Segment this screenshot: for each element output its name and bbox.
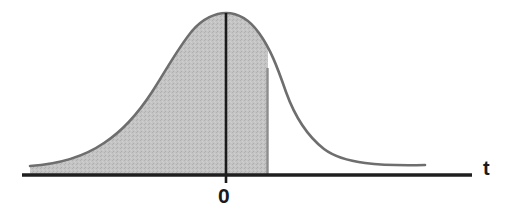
t-distribution-figure: 0 t	[0, 0, 508, 222]
origin-tick-label: 0	[218, 185, 230, 206]
distribution-plot	[0, 0, 508, 222]
x-axis-label: t	[483, 158, 490, 178]
shaded-area-region	[30, 13, 278, 176]
shaded-area-fill	[30, 13, 278, 176]
